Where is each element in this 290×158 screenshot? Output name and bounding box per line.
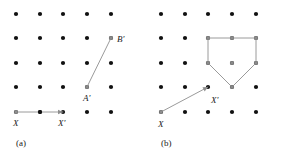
panel-b: X X' (b) [145,0,290,158]
grid-dot-r1-c4 [230,12,234,16]
grid-dot-r5-c5 [109,110,113,114]
grid-dot-r1-c3 [206,12,210,16]
grid-dot-r4-c1 [14,85,18,89]
grid-dot-r5-c4 [230,110,234,114]
grid-dot-r1-c2 [38,12,42,16]
grid-dot-r3-c2 [183,61,187,65]
grid-dot-r3-c3 [61,61,65,65]
grid-dot-r1-c1 [14,12,18,16]
grid-dot-r2-c3 [61,36,65,40]
grid-dot-r4-c1 [159,85,163,89]
point-label-a-prime: A' [83,93,90,103]
b-vector-tail-dot [159,110,163,114]
grid-dot-r4-c3 [61,85,65,89]
grid-dot-r3-c1 [14,61,18,65]
grid-dot-r5-c5 [254,110,258,114]
grid-dot-r1-c4 [85,12,89,16]
translated-pentagon [206,36,258,89]
figure-container: X X' A' B' (a) X X' (b) [0,0,290,158]
polygon-vertex-1 [206,36,210,40]
grid-dot-r3-c2 [38,61,42,65]
segment-endpoint-b-prime [109,36,113,40]
polygon-vertex-5 [230,85,234,89]
grid-dot-r1-c1 [159,12,163,16]
grid-dot-r2-c1 [14,36,18,40]
polygon-vertex-4 [254,61,258,65]
grid-dot-r3-c4 [85,61,89,65]
grid-dot-r1-c5 [254,12,258,16]
segment-aprime-bprime [85,36,113,89]
grid-dot-r2-c1 [159,36,163,40]
polygon-vertex-2 [230,36,234,40]
panel-caption-b: (b) [161,138,172,148]
translation-vector-x-to-xprime [159,87,208,114]
grid-dot-r1-c2 [183,12,187,16]
grid-dot-r4-c5 [254,85,258,89]
segment-line [87,38,111,87]
grid-dot-r5-c4 [85,110,89,114]
polygon-vertex-3 [254,36,258,40]
panel-a-graphics [0,0,145,158]
grid-dot-r2-c2 [38,36,42,40]
point-label-x-prime: X' [211,95,218,105]
grid-dot-r1-c5 [109,12,113,16]
panel-a: X X' A' B' (a) [0,0,145,158]
grid-dot-r4-c2 [38,85,42,89]
grid-dot-r3-c5 [109,61,113,65]
grid-dot-r2-c2 [183,36,187,40]
point-label-x-prime: X' [58,118,65,128]
grid-dot-r4-c5 [109,85,113,89]
grid-dot-r2-c4 [85,36,89,40]
dot-grid [14,12,113,114]
segment-endpoint-a-prime [85,85,89,89]
translation-vector-x-to-xprime [14,110,63,115]
a-vector-midpoint-dot [38,110,42,114]
a-vector-tail-dot [14,110,18,114]
grid-dot-r5-c2 [183,110,187,114]
point-label-b-prime: B' [117,34,124,44]
point-label-x: X [158,119,164,129]
grid-dot-r1-c3 [61,12,65,16]
grid-dot-r5-c3 [206,110,210,114]
polygon-vertex-6 [206,61,210,65]
b-vector-line [161,87,208,112]
grid-dot-r3-c1 [159,61,163,65]
grid-dot-r4-c2 [183,85,187,89]
panel-caption-a: (a) [16,138,26,148]
panel-b-graphics [145,0,290,158]
polygon-interior-dot [230,61,234,65]
point-label-x: X [13,118,19,128]
